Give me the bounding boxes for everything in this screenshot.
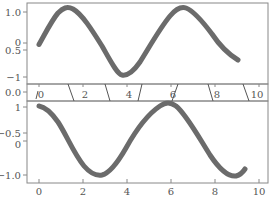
chart-figure: 1.0 0 0.5 −1 0.0 0 2 4 6 8 10 1 −0.5 0 −… — [0, 0, 271, 205]
mid-xtick-label: 6 — [170, 89, 176, 100]
bottom-ytick-label: 1 — [15, 102, 21, 113]
top-y-axis — [23, 12, 27, 77]
bottom-xtick-label: 8 — [212, 186, 218, 197]
bottom-ytick-label: 0 — [15, 139, 21, 150]
middle-strip-frame — [27, 84, 268, 101]
top-ytick-label: 1.0 — [5, 7, 21, 18]
bottom-x-axis — [39, 179, 259, 183]
top-panel-frame — [27, 3, 268, 84]
bottom-xtick-label: 6 — [168, 186, 174, 197]
top-sine-curve — [39, 7, 238, 75]
mid-xtick-label: 10 — [251, 89, 264, 100]
bottom-xtick-label: 2 — [80, 186, 86, 197]
top-ytick-label: −1 — [6, 72, 21, 83]
bottom-cosine-curve — [39, 103, 245, 176]
mid-xtick-label: 2 — [82, 89, 88, 100]
mid-xtick-label: 4 — [126, 89, 132, 100]
bottom-ytick-label: −1.0 — [0, 170, 21, 181]
mid-xtick-label: 8 — [214, 89, 220, 100]
bottom-panel-frame — [27, 101, 268, 183]
bottom-y-axis — [23, 107, 27, 175]
mid-ytick-label: 0.0 — [5, 87, 21, 98]
top-ytick-label: 0.5 — [5, 45, 21, 56]
bottom-xtick-label: 0 — [36, 186, 42, 197]
mid-xtick-label: 0 — [38, 89, 44, 100]
bottom-xtick-label: 10 — [253, 186, 266, 197]
bottom-xtick-label: 4 — [124, 186, 130, 197]
bottom-ytick-label: −0.5 — [0, 128, 21, 139]
